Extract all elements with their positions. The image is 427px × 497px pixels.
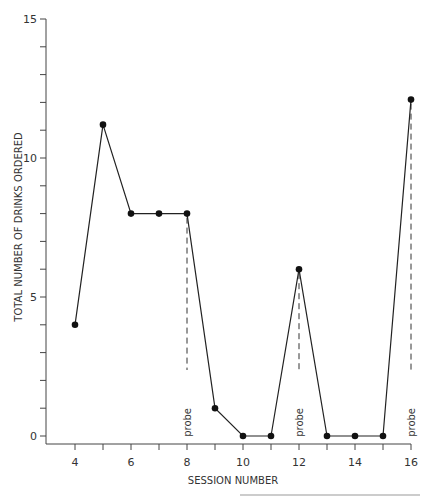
probe-label: probe bbox=[182, 408, 193, 437]
data-point-marker bbox=[212, 405, 219, 412]
probe-label: probe bbox=[294, 408, 305, 437]
x-tick-label: 8 bbox=[184, 456, 191, 469]
series-line bbox=[75, 100, 411, 436]
x-axis: 46810121416 bbox=[46, 444, 418, 469]
data-point-marker bbox=[352, 433, 359, 440]
data-point-marker bbox=[408, 96, 415, 103]
data-point-marker bbox=[184, 210, 191, 217]
y-axis: 051015 bbox=[23, 13, 46, 444]
y-tick-label: 10 bbox=[23, 152, 37, 165]
x-axis-title: SESSION NUMBER bbox=[188, 475, 278, 486]
data-point-marker bbox=[72, 322, 79, 329]
x-tick-label: 12 bbox=[292, 456, 306, 469]
data-point-marker bbox=[296, 266, 303, 273]
y-tick-label: 5 bbox=[30, 291, 37, 304]
x-tick-label: 4 bbox=[72, 456, 79, 469]
data-series bbox=[72, 96, 415, 439]
line-chart: 051015 46810121416 probeprobeprobe SESSI… bbox=[0, 0, 427, 497]
y-tick-label: 15 bbox=[23, 13, 37, 26]
data-point-marker bbox=[324, 433, 331, 440]
probe-label: probe bbox=[406, 408, 417, 437]
data-point-marker bbox=[156, 210, 163, 217]
data-point-marker bbox=[100, 121, 107, 128]
data-point-marker bbox=[240, 433, 247, 440]
data-point-marker bbox=[268, 433, 275, 440]
x-tick-label: 16 bbox=[404, 456, 418, 469]
y-tick-label: 0 bbox=[30, 430, 37, 443]
data-point-marker bbox=[128, 210, 135, 217]
y-axis-title: TOTAL NUMBER OF DRINKS ORDERED bbox=[13, 132, 24, 323]
x-tick-label: 6 bbox=[128, 456, 135, 469]
x-tick-label: 10 bbox=[236, 456, 250, 469]
data-point-marker bbox=[380, 433, 387, 440]
x-tick-label: 14 bbox=[348, 456, 362, 469]
